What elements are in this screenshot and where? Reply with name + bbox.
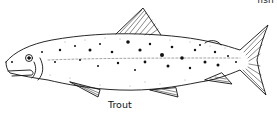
body-outline: [6, 25, 268, 95]
gill-cover: [38, 58, 43, 80]
trout-illustration: [0, 0, 277, 114]
dorsal-fin: [116, 8, 161, 35]
figure-caption: Trout: [108, 99, 132, 110]
pectoral-fin: [70, 82, 100, 97]
